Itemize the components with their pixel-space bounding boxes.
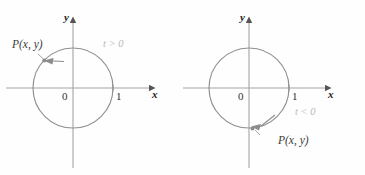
y-axis-label: y — [64, 12, 69, 23]
panel-right-graphic — [183, 0, 365, 175]
parameter-label-t-negative: t < 0 — [295, 107, 316, 118]
terminal-point-marker — [251, 127, 255, 131]
panel-t-positive: y x 1 0 P(x, y) t > 0 — [0, 0, 182, 175]
terminal-point-marker — [42, 59, 46, 63]
terminal-point-label: P(x, y) — [12, 39, 43, 51]
terminal-point-label: P(x, y) — [278, 135, 309, 147]
x-axis-label: x — [152, 89, 158, 100]
unit-circle-figure: y x 1 0 P(x, y) t > 0 — [0, 0, 365, 175]
direction-arrow-shaft — [53, 61, 64, 62]
panel-t-negative: y x 1 0 P(x, y) t < 0 — [183, 0, 365, 175]
origin-label: 0 — [238, 91, 244, 102]
point-leader-line — [255, 130, 260, 135]
x-tick-label-one: 1 — [116, 91, 122, 102]
y-axis-label: y — [240, 12, 245, 23]
origin-label: 0 — [62, 91, 68, 102]
x-tick-label-one: 1 — [292, 91, 298, 102]
x-axis-label: x — [328, 89, 334, 100]
point-leader-line — [38, 54, 44, 59]
parameter-label-t-positive: t > 0 — [103, 39, 124, 50]
